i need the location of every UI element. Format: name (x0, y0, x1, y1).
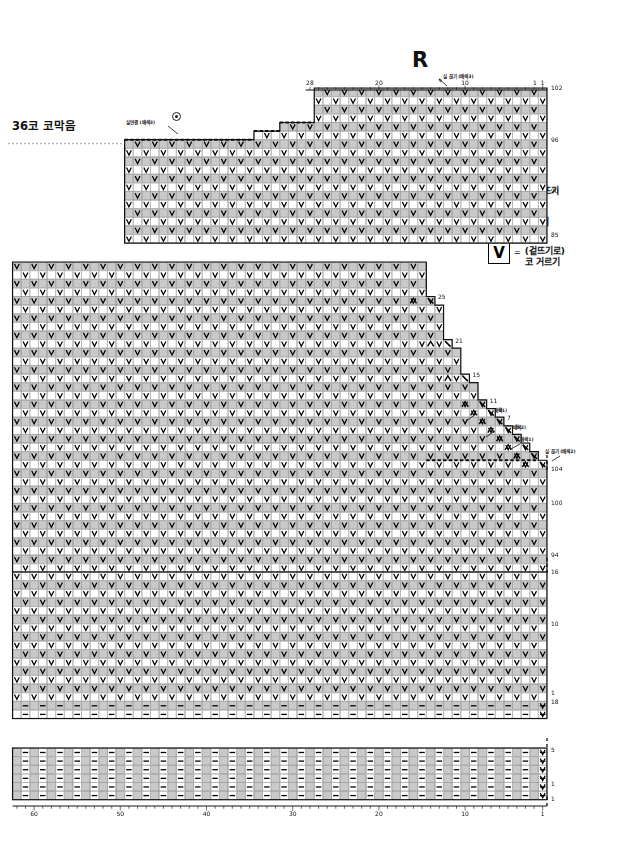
row-label-mid-25: 25 (438, 294, 446, 300)
row-label-top-85: 85 (551, 232, 559, 238)
bottom-axis-tick-10: 10 (461, 811, 469, 817)
chart-page: R 36코 코막음 실 끊기 (배색3) 실연결 (배색3) 실연결 (배색1)… (0, 0, 617, 851)
knitting-chart-canvas (0, 0, 617, 851)
top-axis-tick-20: 20 (375, 80, 383, 86)
row-label-low-10: 10 (551, 621, 559, 627)
row-label-mid-7: 7 (507, 415, 511, 421)
bottom-axis-tick-30: 30 (289, 811, 297, 817)
bottom-axis-tick-20: 20 (375, 811, 383, 817)
row-label-mid-right-100: 100 (551, 500, 562, 506)
row-label-top-90: 90 (551, 188, 559, 194)
top-stitch-1-label: 1 (533, 80, 537, 86)
row-label-low-16: 16 (551, 569, 559, 575)
row-label-mid-11: 11 (490, 398, 498, 404)
row-label-mid-right-94: 94 (551, 552, 559, 558)
top-axis-tick-1: 1 (541, 80, 545, 86)
row-label-mid-9: 9 (498, 407, 502, 413)
row-label-rib-1: 1 (551, 781, 555, 787)
top-axis-tick-10: 10 (461, 80, 469, 86)
bottom-axis-tick-50: 50 (116, 811, 124, 817)
row-label-low-18: 18 (551, 699, 559, 705)
row-label-top-96: 96 (551, 137, 559, 143)
row-label-mid-15: 15 (472, 372, 480, 378)
bottom-axis-tick-40: 40 (203, 811, 211, 817)
row-label-rib-2: 1 (551, 796, 555, 802)
row-label-top-102: 102 (551, 85, 562, 91)
top-axis-tick-28: 28 (306, 80, 314, 86)
bottom-axis-tick-1: 1 (541, 811, 545, 817)
row-label-rib-0: 5 (551, 747, 555, 753)
row-label-mid-21: 21 (455, 338, 463, 344)
row-label-mid-right-104: 104 (551, 466, 562, 472)
row-label-low-1: 1 (551, 690, 555, 696)
row-label-mid-5: 5 (516, 424, 520, 430)
bottom-axis-tick-60: 60 (30, 811, 38, 817)
